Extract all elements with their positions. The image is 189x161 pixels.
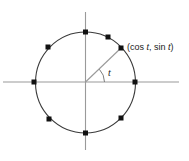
unit-circle-figure: (cos t, sin t) t <box>0 0 189 161</box>
point-dot-upper-left <box>46 45 51 50</box>
point-dot-top <box>83 30 88 35</box>
point-coordinate-label: (cos t, sin t) <box>127 42 174 52</box>
angle-t-label: t <box>108 67 111 78</box>
label-sin-fn: sin <box>154 42 166 52</box>
label-cos-fn: cos <box>130 42 145 52</box>
point-dot-left <box>32 80 37 85</box>
angle-arc <box>99 69 104 82</box>
point-dot-right <box>133 80 138 85</box>
point-dot-cos-t-sin-t <box>119 46 124 51</box>
point-dot-lower-left <box>47 117 52 122</box>
label-close-paren: ) <box>171 42 174 52</box>
radius-line <box>86 48 122 82</box>
point-dot-upper-right-outer <box>106 35 111 40</box>
point-dot-lower-right <box>119 116 124 121</box>
point-dot-bottom <box>83 131 88 136</box>
